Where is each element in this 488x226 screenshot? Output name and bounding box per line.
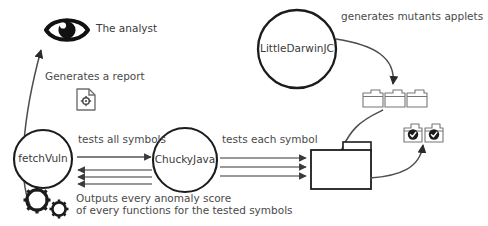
outputs-caption-line2: of every functions for the tested symbol… (76, 204, 293, 216)
check-badge-icon (408, 129, 418, 139)
generates-report-label: Generates a report (45, 70, 145, 82)
tests-each-symbol-label: tests each symbol (222, 133, 318, 145)
gear-large (24, 187, 51, 214)
results-folder-icon (311, 142, 371, 189)
edge-chuckyjava-to-fetchvuln (78, 170, 152, 184)
edge-littledarwin-to-applets (336, 39, 393, 84)
node-chuckyjava-label: ChuckyJava (155, 153, 216, 165)
node-fetchvuln-label: fetchVuln (18, 152, 67, 164)
diagram-svg: The analyst Generates a report fetchVuln (0, 0, 488, 226)
node-fetchvuln[interactable]: fetchVuln (14, 130, 72, 188)
applet-folder-icon-3 (407, 90, 427, 107)
report-document-icon (77, 89, 95, 110)
outputs-caption-line1: Outputs every anomaly score (76, 192, 231, 204)
applet-folder-icon-1 (363, 90, 383, 107)
gear-small (50, 200, 69, 219)
edge-folder-to-verified-applets (370, 145, 423, 178)
node-littledarwinjc-label: LittleDarwinJC (260, 42, 334, 54)
diagram-canvas: The analyst Generates a report fetchVuln (0, 0, 488, 226)
generates-mutants-applets-label: generates mutants applets (341, 10, 483, 22)
check-badge-icon (429, 129, 439, 139)
gears-icon (24, 187, 69, 219)
edge-chuckyjava-to-folder (220, 158, 306, 176)
analyst-label: The analyst (95, 22, 157, 34)
applet-folder-icon-2 (385, 90, 405, 107)
verified-applet-folder-icon-1 (404, 124, 422, 142)
tests-all-symbols-label: tests all symbols (78, 133, 166, 145)
node-littledarwinjc[interactable]: LittleDarwinJC (258, 10, 336, 88)
verified-applet-folder-icon-2 (425, 124, 443, 142)
eye-icon (46, 20, 88, 40)
